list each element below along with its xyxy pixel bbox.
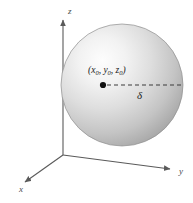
y-axis-line — [63, 155, 170, 169]
sphere-center-dot — [100, 82, 106, 88]
z-axis-label: z — [67, 6, 72, 16]
radius-delta-label: δ — [137, 89, 143, 101]
sphere-diagram-svg: (x0, y0, z0) δ z y x — [0, 0, 193, 203]
x-axis-line — [25, 155, 63, 182]
center-label-close-paren: ) — [122, 65, 126, 76]
y-axis-label: y — [178, 166, 183, 176]
figure-container: (x0, y0, z0) δ z y x — [0, 0, 193, 203]
x-axis-label: x — [18, 184, 23, 194]
